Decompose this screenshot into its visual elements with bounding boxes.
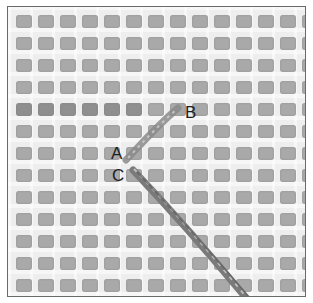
yarn-strand [8, 7, 306, 297]
label-c: C [112, 167, 124, 184]
label-b: B [185, 104, 196, 121]
label-a: A [111, 145, 122, 162]
canvas-photo-frame [7, 6, 306, 297]
